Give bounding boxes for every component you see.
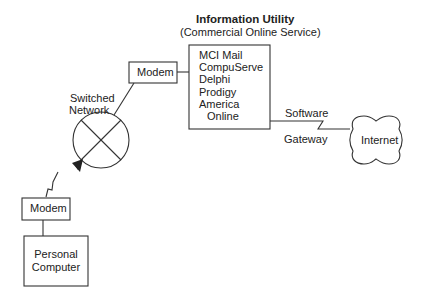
switched-network-label-line1: Switched (70, 92, 115, 104)
service-item: CompuServe (199, 61, 263, 73)
service-item: Prodigy (199, 86, 263, 98)
service-item: MCI Mail (199, 49, 263, 61)
service-item: America (199, 98, 263, 110)
user-modem-label: Modem (30, 202, 67, 214)
service-item: Online (199, 110, 263, 122)
service-list: MCI Mail CompuServe Delphi Prodigy Ameri… (199, 49, 263, 122)
utility-subtitle: (Commercial Online Service) (180, 26, 321, 39)
utility-modem-label: Modem (137, 66, 174, 78)
service-item: Delphi (199, 73, 263, 85)
dialup-link-zigzag (46, 172, 58, 197)
utility-title: Information Utility (196, 13, 294, 26)
network-modem-connector (114, 83, 134, 115)
software-gateway-label-top: Software (285, 107, 328, 119)
dialup-arrowhead-fill (72, 159, 83, 172)
internet-label: Internet (361, 134, 398, 146)
software-gateway-label-bottom: Gateway (284, 133, 327, 145)
personal-computer-label-line2: Computer (24, 261, 88, 274)
personal-computer-label-line1: Personal (24, 248, 88, 261)
software-gateway-link (270, 121, 350, 129)
switched-network-label-line2: Network (69, 104, 109, 116)
personal-computer-label: Personal Computer (24, 248, 88, 273)
